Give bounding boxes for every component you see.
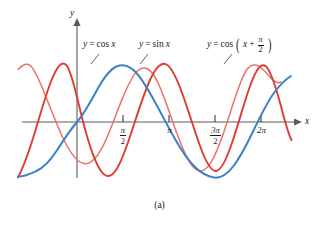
shift-label-fraction: π 2 (258, 36, 264, 54)
tick-pi-over-2-numerator: π (120, 126, 126, 136)
shift-label-fraction-denominator: 2 (258, 46, 264, 55)
curve-label-sin-x: y = sin x (139, 40, 170, 50)
sin-label-arg: x (166, 40, 170, 50)
cos-label-equals: = (89, 40, 94, 50)
sin-label-lhs: y (139, 40, 143, 50)
y-axis-label: y (70, 8, 74, 18)
shift-label-plus: + (249, 40, 254, 50)
tick-label-pi: π (164, 126, 175, 135)
cos-label-arg: x (111, 40, 115, 50)
leader-lines (91, 54, 232, 64)
tick-label-2pi: 2π (254, 126, 269, 135)
shift-label-equals: = (213, 40, 218, 50)
cos-label-lhs: y (83, 40, 87, 50)
shift-label-paren-close: ) (268, 37, 272, 52)
curve-label-cos-x-plus-pi-over-2: y = cos ( x + π 2 ) (207, 36, 272, 54)
tick-pi-over-2-denominator: 2 (120, 136, 126, 145)
tick-3pi-over-2-numerator: 3π (210, 126, 221, 136)
curve-sin-x (18, 65, 291, 178)
tick-label-3pi-over-2: 3π 2 (206, 126, 225, 145)
sin-label-function: sin (153, 40, 164, 50)
curve-cos-x-plus-pi-over-2 (18, 63, 292, 177)
x-axis-label: x (305, 116, 309, 126)
shift-label-function: cos (221, 40, 234, 50)
tick-3pi-over-2-denominator: 2 (212, 136, 218, 145)
shift-label-lhs: y (207, 40, 211, 50)
leader-line-cos (91, 54, 99, 64)
sin-label-equals: = (145, 40, 150, 50)
leader-line-shift (224, 54, 232, 64)
shift-label-arg: x (243, 40, 247, 50)
shift-label-paren-open: ( (236, 37, 240, 52)
curve-label-cos-x: y = cos x (83, 40, 115, 50)
trig-graph-figure: y x y = cos x y = sin x y = cos ( x + π (0, 0, 319, 226)
tick-label-pi-over-2: π 2 (115, 126, 131, 145)
figure-caption: (a) (0, 200, 319, 210)
trig-plot-svg (0, 0, 319, 226)
cos-label-function: cos (97, 40, 110, 50)
leader-line-sin (140, 54, 148, 64)
